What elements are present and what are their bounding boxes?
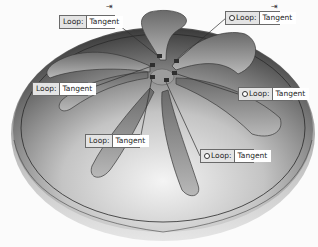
callout-loop-tangent-3[interactable]: Loop: Tangent	[32, 82, 88, 96]
callout-value[interactable]: Tangent	[273, 88, 310, 100]
handle-dot-icon[interactable]	[204, 153, 210, 159]
callout-loop-tangent-2[interactable]: Loop: Tangent	[225, 11, 280, 25]
callout-value[interactable]: Tangent	[87, 16, 124, 28]
callout-loop-tangent-6[interactable]: Loop: Tangent	[200, 149, 254, 163]
pin-icon[interactable]: ⇥	[106, 3, 113, 11]
callout-label: Loop:	[86, 135, 113, 147]
callout-value[interactable]: Tangent	[260, 12, 297, 24]
callout-loop-tangent-1[interactable]: Loop: Tangent	[59, 15, 115, 29]
callout-label: Loop:	[60, 16, 87, 28]
handle-dot-icon[interactable]	[229, 15, 235, 21]
pin-icon[interactable]: ⇥	[271, 3, 278, 11]
callout-loop-tangent-4[interactable]: Loop: Tangent	[238, 87, 293, 101]
callout-value[interactable]: Tangent	[113, 135, 150, 147]
cad-viewport[interactable]: ⇥ ⇥ Loop: Tangent Loop: Tangent Loop: Ta…	[0, 0, 318, 247]
callout-loop-tangent-5[interactable]: Loop: Tangent	[85, 134, 140, 148]
callout-value[interactable]: Tangent	[60, 83, 97, 95]
callout-value[interactable]: Tangent	[235, 150, 272, 162]
callout-label-with-handle: Loop:	[201, 150, 235, 162]
handle-dot-icon[interactable]	[242, 91, 248, 97]
callout-label: Loop:	[33, 83, 60, 95]
callout-label-with-handle: Loop:	[226, 12, 260, 24]
domed-disc-model[interactable]	[0, 0, 318, 247]
callout-label-with-handle: Loop:	[239, 88, 273, 100]
